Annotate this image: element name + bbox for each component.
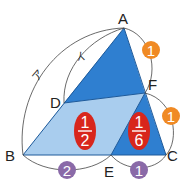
vertex-label-d: D	[50, 94, 61, 111]
svg-text:1: 1	[135, 114, 144, 131]
vertex-label-b: B	[5, 147, 15, 164]
vertex-label-a: A	[118, 10, 128, 27]
arc-label-outer: ア	[30, 67, 47, 84]
badge-af: 1	[142, 41, 160, 59]
svg-text:1: 1	[81, 114, 90, 131]
badge-be: 2	[58, 161, 76, 179]
badge-fc: 1	[162, 107, 180, 125]
badge-ec: 1	[130, 161, 148, 179]
region-adf	[64, 28, 145, 103]
svg-text:1: 1	[135, 162, 143, 179]
svg-text:1: 1	[167, 108, 175, 125]
vertex-label-e: E	[104, 163, 114, 180]
fraction-fec: 1 6	[128, 112, 150, 150]
svg-text:6: 6	[135, 132, 144, 149]
svg-text:2: 2	[63, 162, 71, 179]
svg-text:2: 2	[81, 132, 90, 149]
triangle-diagram: A B C D E F ア イ 1 1 2 1 1	[0, 0, 185, 186]
svg-text:1: 1	[147, 42, 155, 59]
vertex-label-c: C	[167, 147, 178, 164]
fraction-dbef: 1 2	[74, 112, 96, 150]
vertex-label-f: F	[148, 76, 157, 93]
diagram-canvas: A B C D E F ア イ 1 1 2 1 1	[0, 0, 185, 186]
